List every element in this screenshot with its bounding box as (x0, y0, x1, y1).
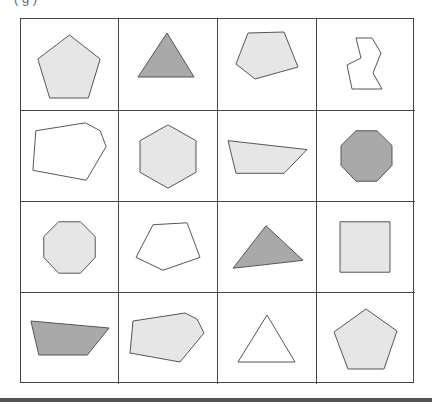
cropped-caption: ( g ) (14, 0, 37, 6)
grid-cell-r1-c4 (317, 19, 415, 111)
square-shape-icon (340, 222, 390, 272)
quadrilateral-shape-icon (31, 321, 109, 355)
pentagon-shape-icon (38, 35, 100, 98)
pentagon-shape-icon (334, 309, 397, 369)
hexagon-irregular-shape-icon (33, 123, 106, 180)
grid-cell-r3-c2 (119, 202, 218, 293)
quadrilateral-shape-icon (228, 141, 307, 174)
grid-cell-r4-c4 (317, 293, 415, 384)
pentagon-irregular-shape-icon (236, 32, 298, 79)
grid-cell-r3-c4 (317, 202, 415, 293)
grid-cell-r4-c2 (119, 293, 218, 384)
pentagon-irregular-shape-icon (136, 223, 200, 270)
triangle-scalene-shape-icon (233, 226, 303, 269)
grid-cell-r3-c1 (21, 202, 119, 293)
octagon-shape-icon (44, 222, 95, 273)
grid-cell-r2-c2 (119, 111, 218, 202)
octagon-shape-icon (341, 131, 392, 181)
grid-cell-r4-c1 (21, 293, 119, 384)
grid-cell-r4-c3 (218, 293, 317, 384)
bottom-divider (0, 398, 432, 402)
triangle-shape-icon (138, 33, 194, 77)
irregular-octagon-outline-shape-icon (347, 38, 382, 89)
hexagon-shape-icon (140, 125, 196, 188)
grid-cell-r1-c3 (218, 19, 317, 111)
hexagon-irregular-shape-icon (130, 313, 204, 362)
grid-cell-r1-c1 (21, 19, 119, 111)
grid-cell-r2-c4 (317, 111, 415, 202)
grid-cell-r3-c3 (218, 202, 317, 293)
grid-cell-r2-c1 (21, 111, 119, 202)
grid-cell-r1-c2 (119, 19, 218, 111)
shape-grid (20, 18, 414, 383)
grid-cell-r2-c3 (218, 111, 317, 202)
triangle-shape-icon (238, 315, 295, 362)
